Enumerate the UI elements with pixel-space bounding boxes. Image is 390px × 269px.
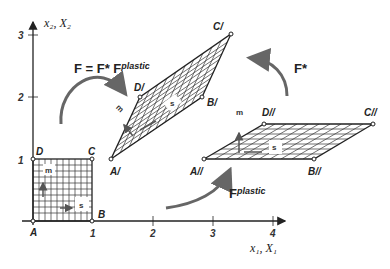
vertex-B-prime: B/ — [207, 97, 218, 108]
slip-label-ref: s — [79, 201, 84, 210]
vertex-D-double-prime: D// — [262, 107, 276, 118]
intermediate-parallelogram — [200, 122, 380, 161]
vertex-B-double-prime: B// — [308, 166, 322, 177]
deformation-diagram: 1 2 3 4 1 2 3 x₁, X₁ x₂, X₂ m s A B C — [0, 0, 390, 269]
elastic-deformation-arrow — [252, 58, 287, 96]
normal-label-ref: m — [45, 166, 52, 175]
vertex-A-prime: A/ — [109, 166, 121, 177]
y-tick-3: 3 — [18, 30, 24, 41]
vertex-D: D — [36, 146, 43, 157]
total-deformation-superscript: plastic — [120, 61, 150, 71]
vertex-B: B — [98, 209, 105, 220]
y-tick-1: 1 — [18, 155, 24, 166]
x-tick-2: 2 — [149, 228, 156, 239]
x-tick-3: 3 — [210, 228, 216, 239]
total-deformation-label: F = F* Fplastic — [74, 61, 150, 76]
x-tick-1: 1 — [90, 228, 96, 239]
slip-label-intermediate: s — [272, 143, 277, 152]
vertex-D-prime: D/ — [134, 82, 145, 93]
slip-label-current: s — [170, 99, 175, 108]
plastic-deformation-superscript: plastic — [236, 186, 266, 196]
total-deformation-text: F = F* F — [74, 61, 121, 76]
vertex-A: A — [29, 227, 37, 238]
x-axis-label: x₁, X₁ — [249, 241, 277, 255]
normal-label-current: m — [114, 103, 125, 114]
vertex-C-prime: C/ — [213, 21, 224, 32]
elastic-deformation-label: F* — [294, 61, 308, 76]
plastic-deformation-label: Fplastic — [229, 186, 265, 201]
normal-label-intermediate: m — [236, 108, 243, 117]
vertex-C: C — [88, 146, 96, 157]
y-axis-label: x₂, X₂ — [43, 16, 71, 30]
y-tick-2: 2 — [17, 92, 24, 103]
reference-square — [31, 157, 94, 223]
vertex-A-double-prime: A// — [189, 166, 204, 177]
vertex-C-double-prime: C// — [364, 107, 378, 118]
total-deformation-arrow — [61, 77, 124, 124]
plastic-deformation-arrow — [166, 172, 229, 208]
plastic-deformation-text: F — [229, 186, 237, 201]
x-tick-4: 4 — [269, 228, 276, 239]
